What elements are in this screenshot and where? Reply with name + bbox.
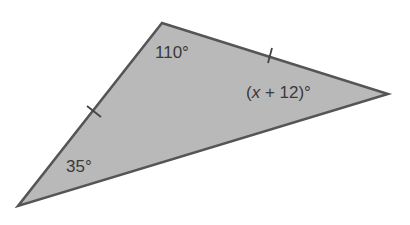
diagram-canvas: 110° (x + 12)° 35°	[0, 0, 410, 225]
angle-label-bottom-left: 35°	[66, 158, 92, 175]
angle-label-top: 110°	[155, 44, 189, 61]
triangle-figure	[0, 0, 410, 225]
angle-label-right: (x + 12)°	[246, 84, 311, 101]
angle-variable-x: x	[252, 83, 261, 102]
angle-label-right-suffix: + 12)°	[260, 83, 311, 102]
triangle-shape	[18, 23, 388, 206]
